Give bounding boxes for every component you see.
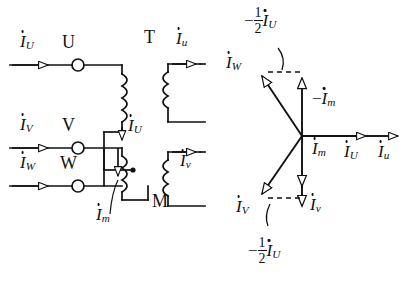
- label-machine-m: M: [152, 192, 168, 210]
- label-minus-half-iu-top: −12IU: [244, 6, 276, 36]
- leader-top-fraction: [278, 48, 283, 70]
- leader-bottom-fraction: [266, 204, 270, 226]
- phasor-iV: [262, 136, 302, 194]
- label-phasor-minus-im: −Im: [312, 90, 335, 108]
- coil-primary-upper: [122, 74, 127, 122]
- label-output-current-iu: Iu: [176, 30, 187, 48]
- label-phasor-iV: IV: [236, 198, 249, 216]
- label-terminal-u: U: [62, 33, 75, 51]
- label-phasor-iW: IW: [226, 54, 241, 72]
- label-magnetizing-current-im: Im: [96, 206, 110, 224]
- terminal-u: [72, 59, 84, 71]
- label-phasor-iu: Iu: [378, 143, 389, 161]
- label-output-current-iv: Iv: [180, 152, 191, 170]
- phasor-iW: [262, 76, 302, 136]
- label-phasor-iv: Iv: [310, 196, 321, 214]
- figure-canvas: IU U IV V IW W IU Im T M Iu Iv −12IU IW …: [0, 0, 410, 284]
- label-input-current-v: IV: [20, 116, 33, 134]
- fraction-leaders: [266, 48, 283, 226]
- label-input-current-w: IW: [20, 154, 35, 172]
- coil-secondary-upper: [163, 72, 168, 108]
- label-terminal-w: W: [60, 154, 77, 172]
- label-terminal-v: V: [62, 116, 75, 134]
- label-branch-current-iu: IU: [128, 117, 142, 135]
- label-phasor-im: Im: [312, 140, 326, 158]
- label-transformer-t: T: [144, 28, 155, 46]
- left-circuit-wires: [10, 64, 205, 206]
- label-minus-half-iu-bottom: −12IU: [248, 236, 280, 266]
- terminal-w: [72, 180, 84, 192]
- label-phasor-iU: IU: [344, 143, 358, 161]
- leader-im: [110, 180, 118, 214]
- label-input-current-u: IU: [20, 33, 34, 51]
